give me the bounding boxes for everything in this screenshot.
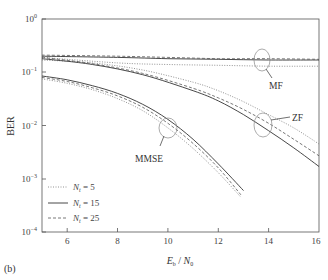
annotation-mmse: MMSE [135, 118, 177, 164]
curve-mf-n-t-15 [42, 56, 319, 60]
x-tick-label: 16 [312, 236, 322, 246]
y-tick-label: 10−4 [22, 226, 37, 237]
x-tick-label: 8 [115, 236, 120, 246]
x-axis: 6 8 10 12 14 16 [65, 228, 321, 246]
legend-label-nt15: Nt = 15 [72, 198, 100, 209]
svg-text:ZF: ZF [292, 113, 303, 123]
y-tick-label: 10−2 [22, 120, 37, 131]
y-axis-title: BER [5, 116, 16, 136]
y-tick-label: 10−3 [22, 173, 37, 184]
curves [42, 55, 319, 197]
x-tick-label: 12 [214, 236, 223, 246]
legend-label-nt25: Nt = 25 [72, 213, 100, 224]
annotation-mf: MF [254, 49, 283, 91]
curve-zf-n-t-5 [42, 60, 319, 144]
curve-zf-n-t-25 [42, 57, 319, 155]
x-tick-label: 14 [264, 236, 274, 246]
legend: Nt = 5 Nt = 15 Nt = 25 [48, 182, 100, 224]
x-tick-label: 6 [65, 236, 70, 246]
y-tick-label: 100 [25, 13, 37, 24]
legend-label-nt5: Nt = 5 [72, 182, 95, 193]
curve-mmse-n-t-15 [42, 76, 244, 191]
y-tick-label: 10−1 [22, 66, 37, 77]
x-axis-title: Eb / N0 [166, 255, 194, 267]
svg-text:MF: MF [269, 81, 283, 91]
svg-text:MMSE: MMSE [135, 154, 163, 164]
panel-label: (b) [4, 263, 16, 274]
curve-mmse-n-t-25 [42, 77, 241, 194]
annotation-zf: ZF [254, 113, 303, 137]
ber-chart: 100 10−1 10−2 10−3 10−4 6 8 10 12 14 16 … [0, 0, 328, 280]
curve-mmse-n-t-5 [42, 79, 241, 197]
curve-zf-n-t-15 [42, 59, 319, 167]
x-tick-label: 10 [163, 236, 173, 246]
